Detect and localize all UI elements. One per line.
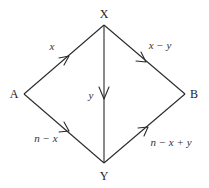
arrowhead-a-y-icon (59, 122, 69, 132)
node-y-label: Y (100, 169, 109, 183)
edge-y-b (104, 94, 185, 163)
node-a-label: A (10, 87, 19, 101)
edge-a-y (24, 94, 104, 163)
arrowhead-y-b-icon (138, 127, 148, 136)
edge-a-x (24, 25, 104, 94)
node-x-label: X (100, 7, 109, 21)
edge-a-x-label: x (49, 40, 55, 52)
edge-x-y-label: y (88, 89, 94, 101)
edge-x-b-label: x − y (148, 39, 172, 51)
flow-diagram: X Y A B x x − y y n − x n − x + y (0, 0, 209, 188)
edge-y-b-label: n − x + y (150, 136, 191, 148)
node-b-label: B (190, 87, 198, 101)
edge-a-y-label: n − x (34, 132, 57, 144)
arrowhead-a-x-icon (59, 56, 69, 65)
